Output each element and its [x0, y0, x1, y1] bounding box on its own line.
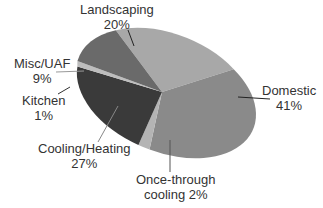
label-kitchen: Kitchen 1%: [22, 93, 65, 123]
label-cooling-heating: Cooling/Heating 27%: [38, 141, 131, 171]
label-landscaping: Landscaping 20%: [80, 2, 154, 32]
pie-chart: Landscaping 20% Misc/UAF 9% Kitchen 1% C…: [0, 0, 323, 208]
label-once-through-cooling: Once-through cooling 2%: [136, 172, 216, 202]
label-misc-uaf: Misc/UAF 9%: [14, 56, 70, 86]
label-domestic: Domestic 41%: [262, 83, 316, 113]
